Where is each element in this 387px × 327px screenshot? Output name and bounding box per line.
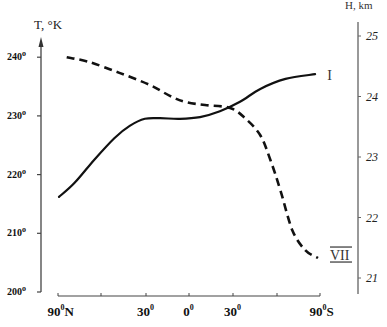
x-tick-label: 300 <box>224 303 241 319</box>
x-tick-degree: 0 <box>237 303 241 312</box>
left-tick-value: 220 <box>7 169 22 180</box>
left-tick-value: 200 <box>7 286 22 297</box>
series-line-vii <box>67 57 318 258</box>
right-axis-title: H, km <box>345 0 373 11</box>
right-axis-ticks: 2122232425 <box>358 29 378 285</box>
left-tick-value: 230 <box>7 110 22 121</box>
left-axis-ticks: 200o210o220o230o240o <box>7 49 41 297</box>
left-tick-label: 220o <box>7 167 26 180</box>
left-tick-value: 240 <box>7 51 22 62</box>
chart: T, °K H, km 200o210o220o230o240o 2122232… <box>0 0 387 327</box>
x-tick-value: 30 <box>224 304 237 319</box>
series-labels: IVII <box>327 68 352 263</box>
right-tick-label: 21 <box>366 271 378 285</box>
x-tick-value: 90 <box>310 304 323 319</box>
x-tick-value: 30 <box>137 304 150 319</box>
right-tick-label: 22 <box>366 211 378 225</box>
x-tick-label: 300 <box>137 303 154 319</box>
x-tick-label: 00 <box>183 303 194 319</box>
series-group <box>59 57 318 258</box>
x-tick-label: 900N <box>48 303 75 319</box>
left-axis-title: T, °K <box>34 17 63 32</box>
right-tick-label: 25 <box>366 29 378 43</box>
axes: T, °K H, km <box>34 0 373 296</box>
left-tick-degree: o <box>22 225 26 234</box>
left-tick-label: 200o <box>7 284 26 297</box>
x-tick-value: 90 <box>48 304 61 319</box>
x-tick-hemisphere: S <box>327 304 334 319</box>
x-axis-ticks: 900N30000300900S <box>48 293 334 319</box>
x-tick-degree: 0 <box>150 303 154 312</box>
left-tick-degree: o <box>22 284 26 293</box>
series-label-vii: VII <box>330 248 350 263</box>
x-tick-degree: 0 <box>190 303 194 312</box>
left-tick-value: 210 <box>7 227 22 238</box>
left-axis-arrow-icon <box>39 37 44 47</box>
x-tick-label: 900S <box>310 303 334 319</box>
left-tick-degree: o <box>22 167 26 176</box>
left-tick-label: 240o <box>7 49 26 62</box>
series-label-i: I <box>327 68 332 83</box>
left-tick-degree: o <box>22 49 26 58</box>
left-tick-degree: o <box>22 108 26 117</box>
right-tick-label: 24 <box>366 90 378 104</box>
x-tick-hemisphere: N <box>65 304 75 319</box>
right-tick-label: 23 <box>366 150 378 164</box>
left-tick-label: 230o <box>7 108 26 121</box>
left-tick-label: 210o <box>7 225 26 238</box>
